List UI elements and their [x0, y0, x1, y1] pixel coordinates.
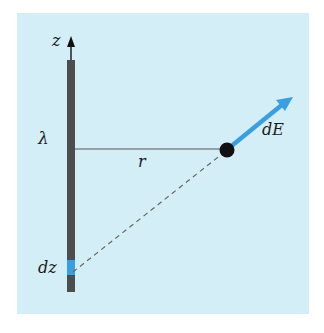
lambda-label: λ: [38, 130, 49, 147]
dE-d: d: [262, 120, 272, 139]
dE-label: dE: [262, 122, 284, 138]
z-axis-label: z: [52, 33, 60, 49]
charged-rod: [67, 60, 75, 292]
line-charge-diagram: [0, 0, 324, 333]
z-axis-arrow-icon: [67, 36, 75, 60]
dz-label: dz: [38, 260, 57, 276]
dz-segment: [67, 260, 75, 275]
dashed-line: [73, 150, 227, 272]
r-label: r: [138, 154, 146, 170]
dE-E: E: [272, 120, 284, 139]
field-point: [220, 143, 235, 158]
